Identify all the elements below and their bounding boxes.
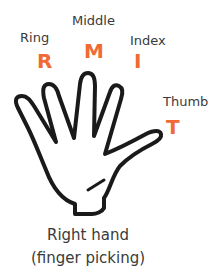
index-finger-letter: I xyxy=(134,51,141,71)
ring-finger-letter: R xyxy=(37,51,52,71)
caption-line-2: (finger picking) xyxy=(0,249,176,267)
ring-finger-label: Ring xyxy=(20,31,49,45)
thumb-label: Thumb xyxy=(163,95,208,109)
caption-line-1: Right hand xyxy=(0,226,176,244)
thumb-letter: T xyxy=(166,117,180,137)
middle-finger-label: Middle xyxy=(72,14,115,28)
middle-finger-letter: M xyxy=(84,41,104,61)
index-finger-label: Index xyxy=(130,34,166,48)
